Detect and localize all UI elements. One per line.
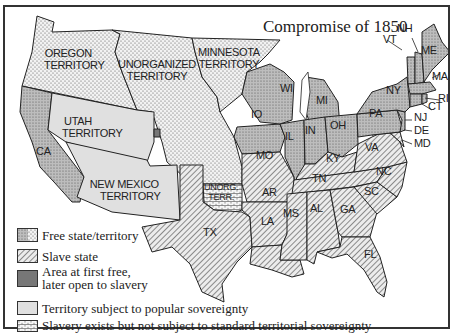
label-MS: MS — [283, 207, 299, 219]
slave-swatch-icon — [17, 249, 38, 263]
label-MD: MD — [414, 137, 431, 149]
label-AL: AL — [310, 202, 323, 214]
label-NH: NH — [397, 22, 412, 34]
label-minnesota-territory: MINNESOTA TERRITORY — [198, 46, 260, 70]
label-IL: IL — [285, 130, 294, 142]
label-FL: FL — [364, 248, 376, 260]
connecticut — [410, 94, 422, 107]
label-GA: GA — [340, 203, 355, 215]
label-utah-territory: UTAH TERRITORY — [62, 115, 122, 139]
vermont — [407, 57, 415, 84]
label-IO: IO — [251, 108, 262, 120]
label-ME: ME — [421, 44, 437, 56]
area-first-free-swatch-icon — [17, 270, 38, 287]
wisconsin — [242, 64, 294, 124]
label-oregon-territory: OREGON TERRITORY — [32, 47, 104, 71]
label-MO: MO — [256, 149, 273, 161]
popular-sovereignty-swatch-icon — [17, 301, 38, 315]
massachusetts — [408, 82, 436, 94]
label-unorg-terr: UNORG. TERR. — [204, 182, 238, 202]
label-RI: RI — [438, 92, 448, 104]
rhode-island — [422, 94, 427, 104]
label-CA: CA — [36, 145, 51, 157]
label-TN: TN — [312, 172, 326, 184]
label-TX: TX — [203, 226, 216, 238]
new-york — [357, 77, 410, 114]
label-OH: OH — [330, 119, 346, 131]
label-NJ: NJ — [414, 111, 427, 123]
unorganized-swatch-icon — [17, 320, 38, 332]
legend-item-popular-sovereignty: Territory subject to popular sovereignty — [17, 301, 248, 315]
label-IN: IN — [305, 124, 315, 136]
label-NY: NY — [386, 84, 401, 96]
label-VA: VA — [365, 141, 378, 153]
label-unorganized-territory: UNORGANIZED TERRITORY — [118, 58, 196, 82]
legend-item-unorganized: Slavery exists but not subject to standa… — [17, 319, 371, 332]
label-AR: AR — [262, 186, 277, 198]
label-NC: NC — [376, 165, 391, 177]
label-LA: LA — [261, 215, 274, 227]
label-MI: MI — [316, 94, 328, 106]
label-WI: WI — [280, 82, 293, 94]
label-DE: DE — [414, 124, 429, 136]
legend-item-slave: Slave state — [17, 249, 98, 263]
label-new-mexico-territory: NEW MEXICO TERRITORY — [88, 178, 160, 202]
label-MA: MA — [432, 70, 448, 82]
label-VT: VT — [383, 33, 396, 45]
label-KY: KY — [326, 152, 340, 164]
label-PA: PA — [369, 107, 382, 119]
legend-item-area-first-free: Area at first free, later open to slaver… — [17, 265, 148, 291]
free-swatch-icon — [17, 228, 38, 242]
legend-item-free: Free state/territory — [17, 228, 138, 242]
area-first-free — [154, 129, 160, 137]
label-SC: SC — [364, 185, 379, 197]
